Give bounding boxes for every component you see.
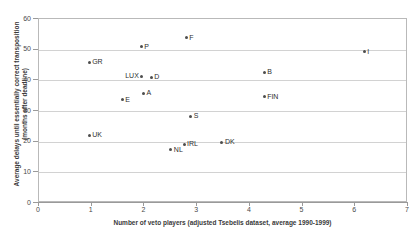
data-point-marker xyxy=(183,143,186,146)
x-tick-label: 7 xyxy=(397,206,417,213)
y-tick-mark xyxy=(33,141,38,142)
y-tick-mark xyxy=(33,171,38,172)
data-point-label: I xyxy=(367,48,369,55)
y-tick-label: 40 xyxy=(1,76,31,83)
x-tick-label: 5 xyxy=(292,206,312,213)
x-tick-mark xyxy=(249,202,250,206)
scatter-chart-figure: Average delays until essentially correct… xyxy=(0,0,418,235)
x-axis-title: Number of veto players (adjusted Tsebeli… xyxy=(38,219,407,227)
y-tick-mark xyxy=(33,18,38,19)
x-tick-label: 0 xyxy=(28,206,48,213)
y-tick-mark xyxy=(33,110,38,111)
data-point-marker xyxy=(263,95,266,98)
data-point-marker xyxy=(88,134,91,137)
data-point-label: A xyxy=(146,89,151,96)
x-axis-line xyxy=(38,202,407,203)
x-tick-mark xyxy=(196,202,197,206)
x-tick-mark xyxy=(38,202,39,206)
y-tick-label: 30 xyxy=(1,107,31,114)
y-tick-label: 10 xyxy=(1,168,31,175)
y-tick-mark xyxy=(33,79,38,80)
gridline xyxy=(39,111,406,112)
data-point-marker xyxy=(142,92,145,95)
x-tick-mark xyxy=(407,202,408,206)
x-tick-label: 6 xyxy=(344,206,364,213)
y-tick-label: 0 xyxy=(1,199,31,206)
x-tick-label: 3 xyxy=(186,206,206,213)
data-point-marker xyxy=(150,76,153,79)
data-point-label: D xyxy=(154,73,159,80)
data-point-label: B xyxy=(267,68,272,75)
data-point-marker xyxy=(185,36,188,39)
y-tick-label-group: 0102030405060 xyxy=(0,0,31,235)
data-point-label: F xyxy=(189,34,193,41)
gridline xyxy=(39,172,406,173)
x-tick-mark xyxy=(91,202,92,206)
plot-area xyxy=(38,18,407,202)
x-tick-mark xyxy=(354,202,355,206)
x-tick-label: 2 xyxy=(133,206,153,213)
data-point-label: GR xyxy=(92,58,103,65)
data-point-label: E xyxy=(125,96,130,103)
data-point-label: UK xyxy=(92,131,102,138)
gridline xyxy=(39,80,406,81)
data-point-marker xyxy=(263,71,266,74)
data-point-label: S xyxy=(194,112,199,119)
data-point-label: P xyxy=(144,43,149,50)
data-point-marker xyxy=(88,61,91,64)
data-point-label: FIN xyxy=(267,93,278,100)
data-point-label: IRL xyxy=(187,140,198,147)
gridline xyxy=(39,50,406,51)
y-tick-mark xyxy=(33,49,38,50)
y-tick-label: 50 xyxy=(1,45,31,52)
data-point-label: LUX xyxy=(125,72,139,79)
data-point-label: DK xyxy=(225,138,235,145)
y-tick-label: 20 xyxy=(1,137,31,144)
x-tick-label: 1 xyxy=(81,206,101,213)
y-tick-label: 60 xyxy=(1,15,31,22)
x-tick-mark xyxy=(143,202,144,206)
data-point-label: NL xyxy=(174,146,183,153)
x-tick-mark xyxy=(302,202,303,206)
x-tick-label: 4 xyxy=(239,206,259,213)
